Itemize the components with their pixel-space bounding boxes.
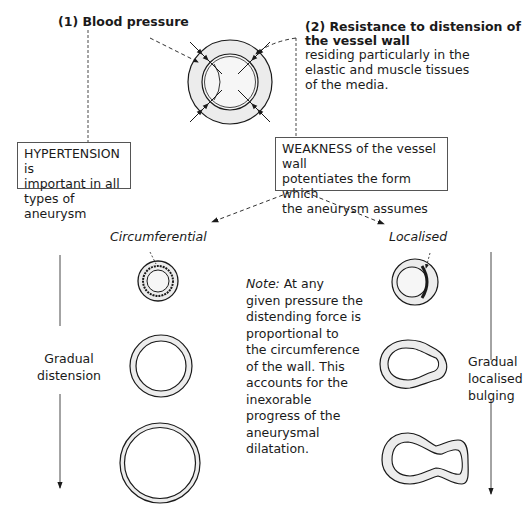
weakness-line: the aneurysm assumes: [282, 201, 441, 216]
note-line: distending force is: [246, 309, 363, 326]
localised-label: Localised: [389, 229, 447, 244]
blood-pressure-label: (1) Blood pressure: [58, 14, 189, 29]
gradual-distension-label: Gradual distension: [37, 350, 101, 384]
note-line: progress of the: [246, 408, 363, 425]
resistance-desc-line2: elastic and muscle tissues: [305, 62, 469, 77]
note-line: the circumference: [246, 342, 363, 359]
note-paragraph: Note: At any given pressure the distendi…: [246, 276, 363, 458]
side-label-line: Gradual: [37, 350, 101, 367]
resistance-title-line1: (2) Resistance to distension of: [305, 19, 521, 34]
localised-vessel-1: [392, 253, 438, 305]
weakness-box: WEAKNESS of the vessel wall potentiates …: [275, 137, 448, 191]
note-line: At any: [280, 276, 324, 291]
side-label-line: localised: [468, 370, 523, 387]
circumferential-vessel-2: [130, 335, 192, 397]
resistance-title-line2: the vessel wall: [305, 33, 410, 48]
resistance-desc-line1: residing particularly in the: [305, 47, 470, 62]
weakness-line: WEAKNESS of the vessel wall: [282, 141, 441, 171]
hypertension-box: HYPERTENSION is important in all types o…: [17, 142, 131, 189]
localised-vessel-3: [382, 433, 468, 484]
note-line: given pressure the: [246, 293, 363, 310]
resistance-leader: [256, 38, 296, 54]
weakness-line: potentiates the form which: [282, 171, 441, 201]
note-line: of the wall. This: [246, 359, 363, 376]
circumferential-vessel-3: [120, 423, 200, 503]
side-label-line: Gradual: [468, 353, 523, 370]
circumferential-vessel-1: [138, 252, 178, 301]
hypertension-line: important in all: [24, 176, 124, 191]
localised-vessel-2: [380, 340, 447, 388]
note-line: dilatation.: [246, 441, 363, 458]
note-line: proportional to: [246, 326, 363, 343]
vessel-cross-section-top: [188, 40, 272, 124]
note-prefix: Note:: [246, 276, 280, 291]
hypertension-line: types of aneurysm: [24, 191, 124, 221]
blood-pressure-leader: [150, 38, 198, 62]
note-line: accounts for the: [246, 375, 363, 392]
note-line: inexorable: [246, 392, 363, 409]
side-label-line: bulging: [468, 387, 523, 404]
gradual-localised-bulging-label: Gradual localised bulging: [468, 353, 523, 404]
resistance-desc-line3: of the media.: [305, 77, 388, 92]
note-line: aneurysmal: [246, 425, 363, 442]
side-label-line: distension: [37, 367, 101, 384]
hypertension-line: HYPERTENSION is: [24, 146, 124, 176]
circumferential-label: Circumferential: [110, 229, 207, 244]
